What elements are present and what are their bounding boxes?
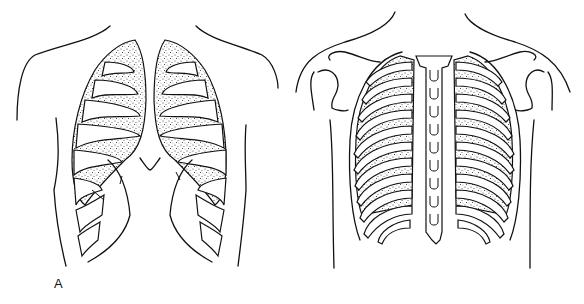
panel-b-posterior-thorax: B	[290, 0, 584, 300]
anterior-thorax-illustration	[0, 0, 290, 300]
panel-a-anterior-thorax: A	[0, 0, 290, 300]
panel-label-a: A	[54, 276, 63, 291]
posterior-thorax-illustration	[290, 0, 584, 300]
